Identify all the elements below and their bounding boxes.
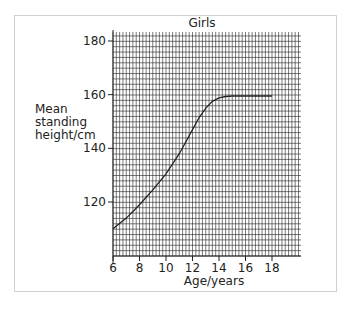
svg-text:140: 140 [83,141,106,155]
svg-text:10: 10 [158,261,173,275]
svg-text:height/cm: height/cm [35,128,96,142]
x-axis-label: Age/years [184,274,244,288]
svg-text:14: 14 [211,261,226,275]
y-axis-label: Meanstandingheight/cm [35,102,96,142]
height-chart: 681012141618120140160180 Girls Age/years… [0,0,351,321]
svg-text:Mean: Mean [35,102,68,116]
svg-text:160: 160 [83,88,106,102]
svg-text:standing: standing [35,115,87,129]
svg-text:12: 12 [185,261,200,275]
svg-text:180: 180 [83,34,106,48]
svg-text:16: 16 [238,261,253,275]
svg-text:18: 18 [264,261,279,275]
svg-text:8: 8 [136,261,144,275]
svg-text:6: 6 [109,261,117,275]
chart-title: Girls [188,16,215,30]
svg-text:120: 120 [83,195,106,209]
grid [113,30,301,264]
